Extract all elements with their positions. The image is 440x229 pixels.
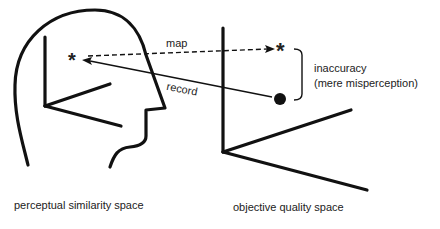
map-label: map bbox=[166, 37, 187, 50]
mapped-point-star: * bbox=[276, 40, 285, 62]
perceptual-space-caption: perceptual similarity space bbox=[14, 199, 144, 212]
head-outline bbox=[15, 10, 165, 167]
perceptual-axes bbox=[45, 37, 121, 126]
inaccuracy-label: inaccuracy bbox=[314, 62, 367, 75]
quality-point bbox=[274, 93, 286, 105]
diagram-canvas bbox=[0, 0, 440, 229]
perceived-point-star: * bbox=[68, 50, 76, 70]
inaccuracy-bracket bbox=[294, 49, 302, 100]
objective-axes bbox=[223, 28, 367, 190]
misperception-label: (mere misperception) bbox=[314, 77, 418, 90]
objective-space-caption: objective quality space bbox=[233, 201, 344, 214]
